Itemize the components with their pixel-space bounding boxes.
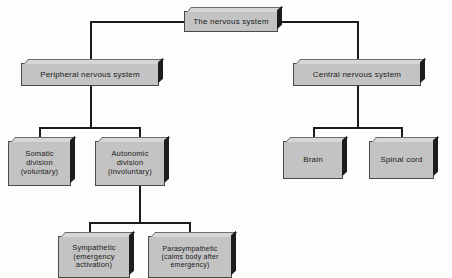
node-peripheral-nervous-system[interactable]: Peripheral nervous system	[21, 63, 159, 86]
node-central-nervous-system[interactable]: Central nervous system	[293, 63, 421, 86]
edge-peripheral-bus	[39, 127, 141, 129]
node-somatic-division[interactable]: Somatic division (voluntary)	[8, 141, 71, 186]
node-parasympathetic[interactable]: Parasympathetic (calms body after emerge…	[148, 236, 232, 278]
node-sympathetic[interactable]: Sympathetic (emergency activation)	[58, 236, 130, 278]
node-label: Central nervous system	[310, 70, 404, 79]
node-label: Autonomic division (involuntary)	[105, 150, 155, 177]
node-label: Somatic division (voluntary)	[18, 150, 62, 177]
edge-peripheral-down	[90, 86, 92, 128]
nervous-system-diagram: The nervous system Peripheral nervous sy…	[0, 0, 452, 278]
node-spinal-cord[interactable]: Spinal cord	[369, 141, 434, 179]
edge-central-bus	[313, 127, 403, 129]
node-autonomic-division[interactable]: Autonomic division (involuntary)	[95, 141, 165, 186]
node-label: Spinal cord	[377, 155, 425, 164]
node-the-nervous-system[interactable]: The nervous system	[184, 11, 278, 32]
node-label: Sympathetic (emergency activation)	[69, 244, 118, 271]
edge-root-to-central-vertical	[357, 21, 359, 63]
edge-root-to-peripheral-vertical	[90, 21, 92, 63]
node-label: The nervous system	[190, 17, 272, 26]
node-label: Peripheral nervous system	[37, 70, 143, 79]
edge-root-to-central-horizontal	[278, 21, 359, 23]
edge-autonomic-down	[139, 186, 141, 223]
node-label: Parasympathetic (calms body after emerge…	[158, 245, 221, 270]
node-label: Brain	[300, 155, 326, 164]
node-brain[interactable]: Brain	[283, 141, 343, 179]
edge-central-down	[357, 86, 359, 128]
edge-autonomic-bus	[89, 222, 191, 224]
edge-root-to-peripheral-horizontal	[90, 21, 186, 23]
